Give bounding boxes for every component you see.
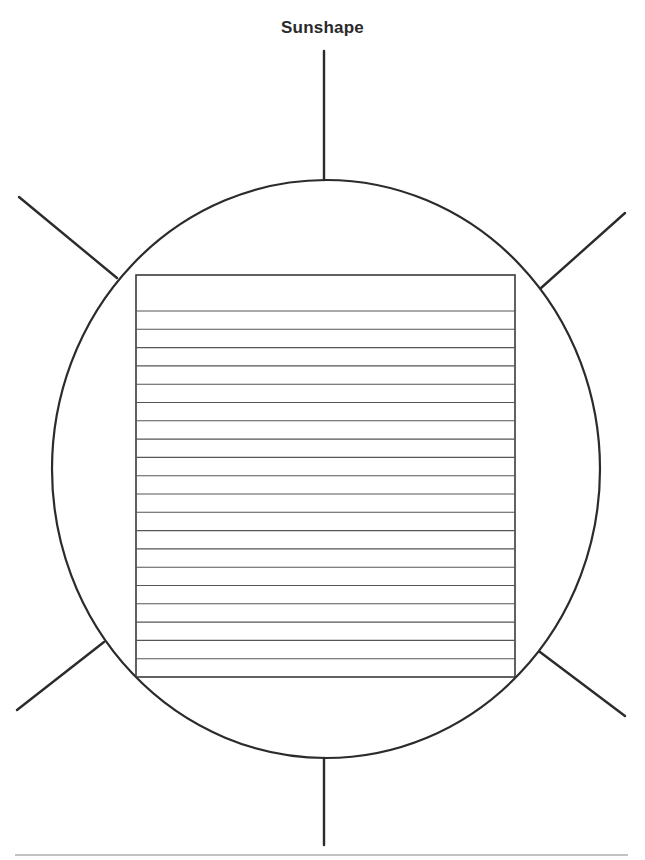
ray-lower-right <box>540 652 625 716</box>
ray-upper-left <box>19 197 117 278</box>
ray-lower-left <box>17 642 104 710</box>
ray-upper-right <box>541 213 625 288</box>
sunshape-diagram <box>0 0 645 860</box>
